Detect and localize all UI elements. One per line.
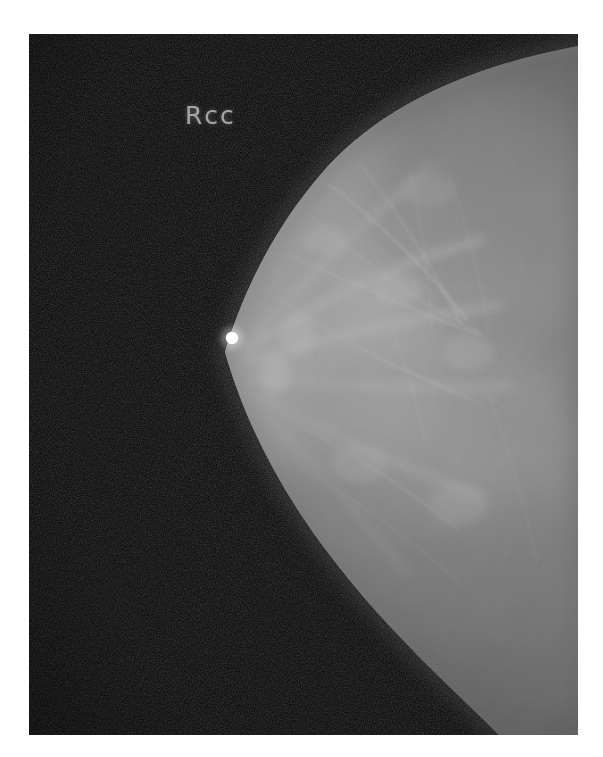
film-fog [29, 34, 578, 735]
nipple-marker [221, 327, 243, 349]
mammogram-image [29, 34, 578, 735]
mammogram-film [29, 34, 578, 735]
film-page: Rcc [0, 0, 603, 757]
